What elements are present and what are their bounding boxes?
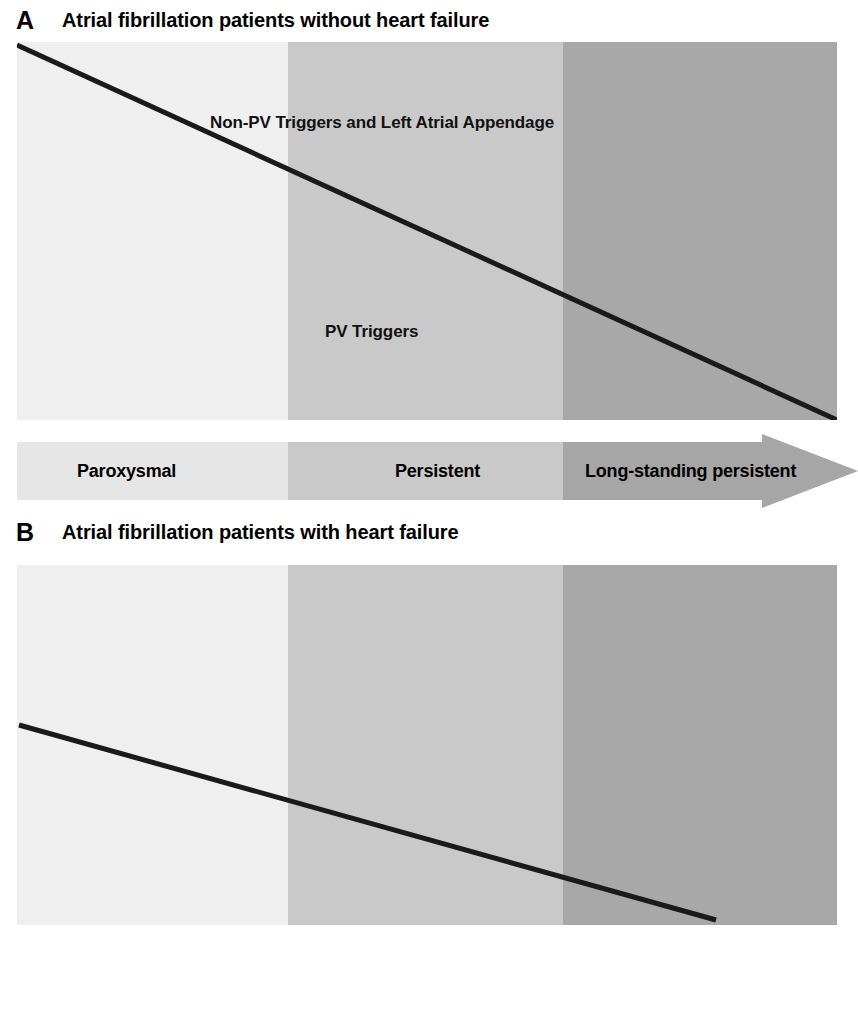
panel-a: A Atrial fibrillation patients without h… <box>0 0 858 512</box>
figure-root: A Atrial fibrillation patients without h… <box>0 0 858 1036</box>
panel-b-band-long-standing-persistent <box>563 565 837 925</box>
panel-b-band-persistent <box>288 565 563 925</box>
panel-a-upper-region-label: Non-PV Triggers and Left Atrial Appendag… <box>210 113 554 133</box>
panel-a-header: A Atrial fibrillation patients without h… <box>0 0 858 40</box>
panel-a-stage-label-long-standing-persistent: Long-standing persistent <box>585 461 796 482</box>
panel-b-bands <box>17 565 837 925</box>
panel-a-stage-label-paroxysmal: Paroxysmal <box>77 461 176 482</box>
panel-a-stage-label-persistent: Persistent <box>395 461 480 482</box>
panel-a-progression-arrow: Paroxysmal Persistent Long-standing pers… <box>17 434 858 508</box>
panel-b-band-block <box>17 565 837 925</box>
panel-a-letter: A <box>16 8 62 33</box>
panel-b: B Atrial fibrillation patients with hear… <box>0 512 858 1036</box>
panel-b-band-paroxysmal <box>17 565 288 925</box>
panel-a-lower-region-label: PV Triggers <box>325 322 418 342</box>
panel-a-band-block <box>17 42 837 420</box>
panel-a-bands <box>17 42 837 420</box>
panel-a-title: Atrial fibrillation patients without hea… <box>62 10 489 30</box>
panel-b-header: B Atrial fibrillation patients with hear… <box>0 512 858 552</box>
panel-a-band-persistent <box>288 42 563 420</box>
panel-b-letter: B <box>16 520 62 545</box>
panel-a-band-paroxysmal <box>17 42 288 420</box>
panel-b-title: Atrial fibrillation patients with heart … <box>62 522 458 542</box>
panel-a-band-long-standing-persistent <box>563 42 837 420</box>
